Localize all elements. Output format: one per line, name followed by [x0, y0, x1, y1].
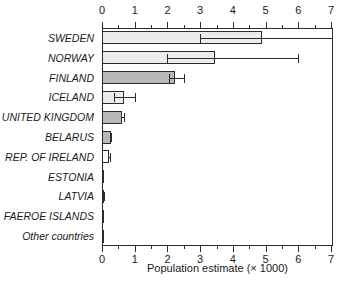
error-bar-cap — [111, 133, 112, 142]
x-tick-label: 5 — [256, 4, 276, 16]
x-tick-label: 6 — [288, 4, 308, 16]
category-label: REP. OF IRELAND — [5, 151, 94, 163]
category-label: SWEDEN — [48, 32, 94, 44]
error-bar-cap — [169, 74, 170, 83]
category-label: BELARUS — [45, 131, 94, 143]
x-tick-label: 7 — [321, 4, 341, 16]
error-bar — [169, 78, 184, 79]
category-label: LATVIA — [59, 190, 94, 202]
category-label: FAEROE ISLANDS — [4, 210, 94, 222]
x-tick-label: 1 — [125, 4, 145, 16]
category-label: Other countries — [22, 230, 94, 242]
x-tick-minor — [315, 246, 316, 249]
x-tick-major — [167, 246, 168, 252]
bars-layer — [102, 28, 333, 246]
error-bar-cap — [124, 113, 125, 122]
error-bar-cap — [110, 153, 111, 162]
x-tick-major — [135, 246, 136, 252]
error-bar — [114, 97, 135, 98]
bar — [102, 230, 104, 243]
x-tick-label: 3 — [190, 4, 210, 16]
category-label: UNITED KINGDOM — [2, 111, 94, 123]
category-label: ICELAND — [48, 91, 94, 103]
error-bar-cap — [108, 153, 109, 162]
error-bar-cap — [104, 192, 105, 201]
error-bar-cap — [200, 34, 201, 43]
category-label: NORWAY — [48, 52, 94, 64]
error-bar — [200, 38, 333, 39]
bar — [102, 170, 104, 183]
bar — [102, 71, 175, 84]
x-tick-label: 0 — [92, 4, 112, 16]
x-axis-title: Population estimate (× 1000) — [102, 262, 333, 274]
x-tick-label: 4 — [223, 4, 243, 16]
x-tick-minor — [151, 246, 152, 249]
error-bar-cap — [167, 54, 168, 63]
x-tick-minor — [217, 246, 218, 249]
x-tick-major — [266, 246, 267, 252]
x-tick-major — [331, 246, 332, 252]
category-label: FINLAND — [49, 72, 94, 84]
x-axis-bottom: 01234567 — [102, 246, 333, 256]
bar — [102, 111, 122, 124]
error-bar-cap — [114, 93, 115, 102]
bar — [102, 210, 104, 223]
x-tick-label: 2 — [157, 4, 177, 16]
x-tick-major — [233, 246, 234, 252]
error-bar-cap — [135, 93, 136, 102]
population-estimate-bar-chart: 01234567 01234567 SWEDENNORWAYFINLANDICE… — [0, 0, 351, 287]
x-tick-minor — [249, 246, 250, 249]
x-tick-major — [200, 246, 201, 252]
error-bar-cap — [184, 74, 185, 83]
x-tick-major — [298, 246, 299, 252]
error-bar-cap — [298, 54, 299, 63]
x-axis-top: 01234567 — [102, 18, 333, 28]
x-tick-major — [102, 246, 103, 252]
x-tick-minor — [282, 246, 283, 249]
category-label: ESTONIA — [48, 171, 94, 183]
x-tick-minor — [118, 246, 119, 249]
error-bar — [167, 58, 298, 59]
error-bar-cap — [121, 113, 122, 122]
category-axis-labels: SWEDENNORWAYFINLANDICELANDUNITED KINGDOM… — [0, 28, 98, 246]
x-tick-minor — [184, 246, 185, 249]
